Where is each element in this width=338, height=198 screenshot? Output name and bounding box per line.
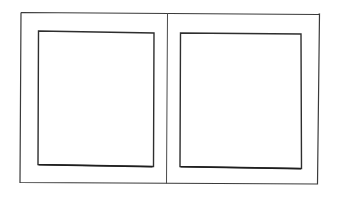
- center-divider: [167, 13, 168, 184]
- window-diagram: [0, 0, 338, 198]
- window-frame-drawing: [0, 0, 338, 198]
- right-pane: [180, 33, 302, 169]
- left-pane: [38, 31, 154, 167]
